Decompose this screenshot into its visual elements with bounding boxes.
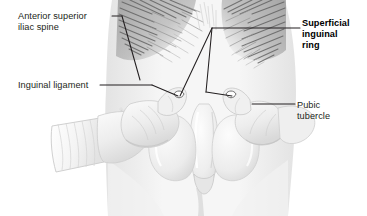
asis-line2: iliac spine — [18, 22, 59, 32]
inguinal-ring-right-mark — [226, 91, 236, 98]
label-inguinal-ligament: Inguinal ligament — [18, 80, 88, 91]
label-superficial-inguinal-ring: Superficialinguinalring — [302, 18, 350, 52]
label-anterior-superior-iliac-spine: Anterior superioriliac spine — [18, 11, 87, 33]
sir-line1: Superficial — [302, 18, 350, 28]
pubic-tubercle-line2: tubercle — [297, 111, 330, 121]
pubic-tubercle-line1: Pubic — [297, 100, 320, 110]
anatomy-figure: Anterior superioriliac spine Inguinal li… — [0, 0, 367, 216]
asis-line1: Anterior superior — [18, 11, 87, 21]
sir-line3: ring — [302, 40, 320, 50]
sir-line2: inguinal — [302, 29, 338, 39]
label-pubic-tubercle: Pubictubercle — [297, 100, 330, 122]
inguinal-ligament-line1: Inguinal ligament — [18, 80, 88, 90]
